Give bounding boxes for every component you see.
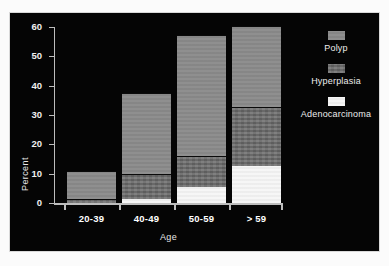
bar-over-59[interactable] <box>232 26 281 203</box>
bar-segment-adenocarcinoma[interactable] <box>177 187 226 203</box>
hyperplasia-swatch-icon <box>328 64 345 73</box>
y-tick-60: 60 <box>49 27 54 28</box>
chart-legend: Polyp Hyperplasia Adenocarcinoma <box>294 31 378 130</box>
bar-segment-hyperplasia[interactable] <box>122 174 171 199</box>
y-tick-label-40: 40 <box>31 80 42 91</box>
chart-figure: Percent 0 10 20 30 40 50 <box>0 0 389 266</box>
y-tick-20: 20 <box>49 144 54 145</box>
legend-entry-hyperplasia[interactable]: Hyperplasia <box>294 64 378 87</box>
bar-segment-polyp[interactable] <box>122 93 171 174</box>
x-axis-title: Age <box>54 232 283 242</box>
y-axis-line <box>54 27 55 205</box>
x-category-label-2: 50-59 <box>177 213 226 224</box>
bar-segment-hyperplasia[interactable] <box>67 199 116 203</box>
y-tick-label-60: 60 <box>31 21 42 32</box>
y-tick-label-0: 0 <box>37 197 42 208</box>
y-tick-50: 50 <box>49 56 54 57</box>
chart-panel: Percent 0 10 20 30 40 50 <box>9 12 380 252</box>
x-tick-0 <box>64 205 66 210</box>
y-tick-10: 10 <box>49 174 54 175</box>
y-tick-label-10: 10 <box>31 168 42 179</box>
y-tick-40: 40 <box>49 86 54 87</box>
legend-entry-polyp[interactable]: Polyp <box>294 31 378 54</box>
legend-label-adenocarcinoma: Adenocarcinoma <box>294 109 378 120</box>
legend-label-polyp: Polyp <box>294 43 378 54</box>
y-axis-title: Percent <box>20 13 30 191</box>
y-tick-label-30: 30 <box>31 109 42 120</box>
bar-segment-polyp[interactable] <box>232 26 281 107</box>
bar-20-39[interactable] <box>67 171 116 203</box>
x-tick-1 <box>119 205 121 210</box>
x-category-label-1: 40-49 <box>122 213 171 224</box>
bar-segment-hyperplasia[interactable] <box>232 107 281 166</box>
x-tick-3 <box>229 205 231 210</box>
x-tick-4 <box>281 205 283 210</box>
bar-40-49[interactable] <box>122 93 171 204</box>
y-tick-30: 30 <box>49 115 54 116</box>
legend-entry-adenocarcinoma[interactable]: Adenocarcinoma <box>294 97 378 120</box>
bar-segment-adenocarcinoma[interactable] <box>122 199 171 203</box>
bar-segment-polyp[interactable] <box>177 35 226 156</box>
adenocarcinoma-swatch-icon <box>328 97 345 106</box>
bar-segment-adenocarcinoma[interactable] <box>232 166 281 203</box>
bar-segment-hyperplasia[interactable] <box>177 156 226 187</box>
y-tick-label-50: 50 <box>31 50 42 61</box>
plot-area: 0 10 20 30 40 50 60 <box>54 27 282 205</box>
bar-50-59[interactable] <box>177 35 226 203</box>
y-tick-0: 0 <box>49 203 54 204</box>
clipped-title-strip <box>0 0 389 11</box>
legend-label-hyperplasia: Hyperplasia <box>294 76 378 87</box>
bar-segment-polyp[interactable] <box>67 171 116 198</box>
x-category-label-0: 20-39 <box>67 213 116 224</box>
x-tick-2 <box>174 205 176 210</box>
x-category-label-3: > 59 <box>232 213 281 224</box>
y-tick-label-20: 20 <box>31 138 42 149</box>
polyp-swatch-icon <box>328 31 345 40</box>
x-axis-line <box>54 203 283 205</box>
